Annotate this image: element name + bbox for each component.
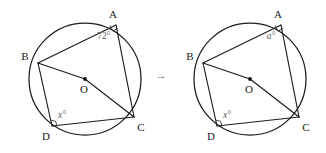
vertex-label-a-left: A xyxy=(109,8,117,20)
vertex-label-a-right: A xyxy=(274,8,282,20)
vertex-label-b-right: B xyxy=(186,50,193,62)
vertex-label-d-left: D xyxy=(42,130,50,142)
centre-dot-right xyxy=(248,77,252,81)
vertex-label-o-left: O xyxy=(80,83,88,95)
vertex-label-c-left: C xyxy=(137,121,144,133)
angle-label-d-right: x° xyxy=(222,110,231,120)
radius-oc-left xyxy=(85,79,134,117)
centre-dot-left xyxy=(83,77,87,81)
radius-oc-right xyxy=(250,79,299,117)
angle-label-a-right: a° xyxy=(267,31,276,41)
vertex-label-c-right: C xyxy=(302,121,309,133)
chord-ac-right xyxy=(281,25,299,117)
radius-bo-left xyxy=(38,63,85,79)
left-diagram: A B C D O 72° x° xyxy=(21,8,144,142)
chord-db-right xyxy=(203,63,217,126)
angle-label-a-left: 72° xyxy=(97,31,111,41)
right-diagram: A B C D O a° x° xyxy=(186,8,309,142)
vertex-label-o-right: O xyxy=(245,83,253,95)
chord-db-left xyxy=(38,63,52,126)
vertex-label-b-left: B xyxy=(21,50,28,62)
geometry-figure: A B C D O 72° x° → A B C D xyxy=(0,0,326,153)
angle-label-d-left: x° xyxy=(57,110,66,120)
figure-canvas: A B C D O 72° x° → A B C D xyxy=(0,0,326,153)
transition-arrow-icon: → xyxy=(156,69,167,81)
radius-bo-right xyxy=(203,63,250,79)
vertex-label-d-right: D xyxy=(207,130,215,142)
chord-ac-left xyxy=(116,25,134,117)
